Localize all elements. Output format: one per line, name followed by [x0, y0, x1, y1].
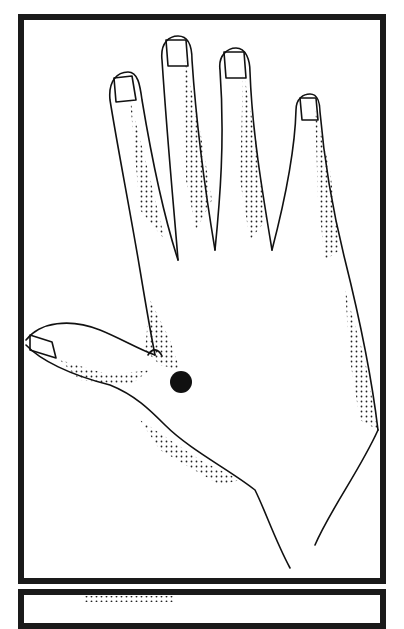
- shading: [60, 60, 378, 485]
- acupressure-point-marker: [170, 371, 192, 393]
- hand-outline: [26, 36, 378, 568]
- next-panel-shading: [85, 596, 175, 602]
